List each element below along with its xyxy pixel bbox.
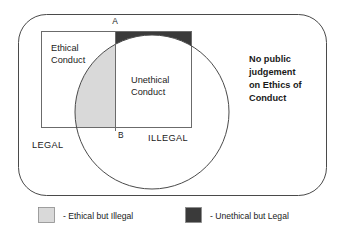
set-label-illegal: ILLEGAL bbox=[148, 133, 188, 143]
venn-diagram-figure: A B Ethical Conduct Unethical Conduct LE… bbox=[0, 0, 344, 237]
venn-diagram-canvas: A B Ethical Conduct Unethical Conduct LE… bbox=[0, 0, 344, 237]
region-label-no-public-judgement-line1: No public bbox=[249, 54, 291, 64]
marker-label-b: B bbox=[118, 130, 124, 140]
legend-label-unethical-but-legal: - Unethical but Legal bbox=[210, 211, 289, 221]
region-label-unethical-conduct-line2: Conduct bbox=[131, 87, 166, 97]
legend-swatch-ethical-but-illegal bbox=[39, 208, 55, 223]
legend: - Ethical but Illegal - Unethical but Le… bbox=[39, 208, 289, 223]
legend-item-unethical-but-legal: - Unethical but Legal bbox=[186, 208, 289, 223]
region-label-no-public-judgement-line2: judgement bbox=[248, 67, 295, 77]
legend-item-ethical-but-illegal: - Ethical but Illegal bbox=[39, 208, 134, 223]
region-label-ethical-conduct-line2: Conduct bbox=[51, 55, 86, 65]
region-label-no-public-judgement-line4: Conduct bbox=[249, 93, 286, 103]
legend-label-ethical-but-illegal: - Ethical but Illegal bbox=[63, 211, 133, 221]
marker-label-a: A bbox=[112, 16, 118, 26]
legend-swatch-unethical-but-legal bbox=[186, 208, 202, 223]
region-label-no-public-judgement-line3: on Ethics of bbox=[249, 80, 303, 90]
set-label-legal: LEGAL bbox=[32, 140, 64, 150]
region-label-unethical-conduct-line1: Unethical bbox=[131, 75, 169, 85]
region-label-ethical-conduct-line1: Ethical bbox=[51, 43, 79, 53]
